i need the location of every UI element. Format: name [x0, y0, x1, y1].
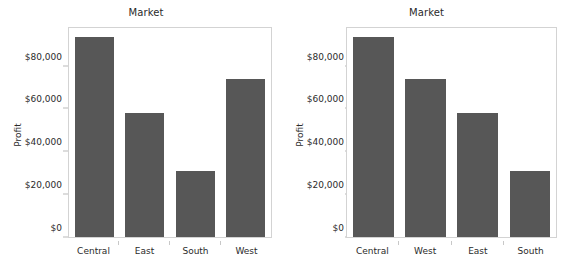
bar-slot [504, 28, 556, 237]
bar-central[interactable] [353, 37, 394, 238]
x-tick-mark [119, 241, 170, 245]
bar-slot [120, 28, 171, 237]
bar-slot [347, 28, 399, 237]
chart-title-right: Market [288, 7, 565, 18]
x-tick-mark [504, 241, 557, 245]
plot-area-right [346, 27, 557, 238]
bar-slot [221, 28, 272, 237]
chart-panel-right: Market Profit $0$20,000$40,000$60,000$80… [282, 0, 565, 269]
y-tick-label: $60,000 [307, 94, 344, 104]
y-tick-label: $40,000 [25, 137, 62, 147]
dual-bar-chart-figure: Market Profit $0$20,000$40,000$60,000$80… [0, 0, 565, 269]
x-axis-right: CentralWestEastSouth [346, 241, 557, 261]
y-tick-label: $0 [333, 223, 344, 233]
bar-slot [452, 28, 504, 237]
bar-slot [170, 28, 221, 237]
bar-group-right [347, 28, 556, 237]
bar-group-left [69, 28, 271, 237]
x-tick-mark [346, 241, 399, 245]
x-tick-mark [399, 241, 452, 245]
bar-west[interactable] [226, 79, 265, 237]
chart-title-left: Market [10, 7, 282, 18]
chart-panel-left: Market Profit $0$20,000$40,000$60,000$80… [0, 0, 282, 269]
bar-slot [399, 28, 451, 237]
y-axis-right: $0$20,000$40,000$60,000$80,000 [296, 27, 350, 238]
y-axis-left: $0$20,000$40,000$60,000$80,000 [14, 27, 68, 238]
x-tick-row-right [346, 241, 557, 245]
x-tick-mark [170, 241, 221, 245]
y-tick-label: $60,000 [25, 94, 62, 104]
x-axis-left: CentralEastSouthWest [68, 241, 272, 261]
x-tick-mark [221, 241, 272, 245]
y-tick-label: $80,000 [25, 52, 62, 62]
bar-south[interactable] [510, 171, 551, 237]
y-tick-label: $40,000 [307, 137, 344, 147]
y-tick-label: $20,000 [307, 180, 344, 190]
bar-west[interactable] [405, 79, 446, 237]
bar-south[interactable] [176, 171, 215, 237]
bar-east[interactable] [457, 113, 498, 237]
x-tick-row-left [68, 241, 272, 245]
y-tick-label: $20,000 [25, 180, 62, 190]
x-tick-mark [68, 241, 119, 245]
plot-area-left [68, 27, 272, 238]
bar-central[interactable] [75, 37, 114, 238]
y-tick-label: $0 [51, 223, 62, 233]
y-tick-label: $80,000 [307, 52, 344, 62]
bar-slot [69, 28, 120, 237]
x-tick-mark [452, 241, 505, 245]
bar-east[interactable] [125, 113, 164, 237]
